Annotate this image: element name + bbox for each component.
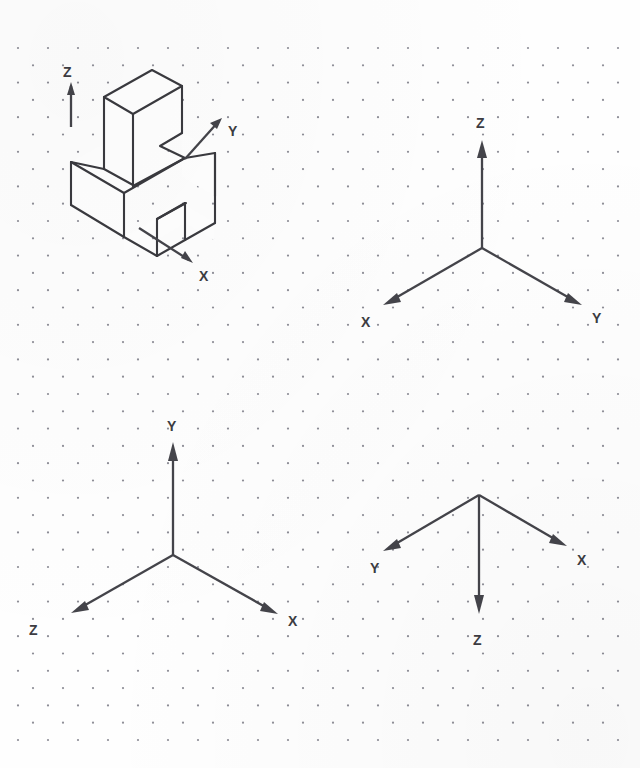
grid-dot [137,428,139,430]
grid-dot [512,99,514,101]
grid-dot [242,479,244,481]
grid-dot [377,47,379,49]
grid-dot [152,479,154,481]
grid-dot [287,393,289,395]
grid-dot [302,687,304,689]
grid-dot [257,82,259,84]
grid-dot [152,341,154,343]
grid-dot [317,704,319,706]
grid-dot [107,393,109,395]
grid-dot [302,583,304,585]
grid-dot [197,601,199,603]
triad2-label-z: Z [29,622,38,638]
grid-dot [62,722,64,724]
grid-dot [437,428,439,430]
grid-dot [452,445,454,447]
grid-dot [242,376,244,378]
grid-dot [272,583,274,585]
grid-dot [422,722,424,724]
grid-dot [302,410,304,412]
grid-dot [452,376,454,378]
grid-dot [587,185,589,187]
grid-dot [422,64,424,66]
grid-dot [32,133,34,135]
grid-dot [62,306,64,308]
grid-dot [347,566,349,568]
grid-dot [287,739,289,741]
grid-dot [212,514,214,516]
grid-dot [17,47,19,49]
grid-dot [92,99,94,101]
grid-dot [422,99,424,101]
grid-dot [77,739,79,741]
grid-dot [362,514,364,516]
grid-dot [47,47,49,49]
grid-dot [317,116,319,118]
grid-dot [422,479,424,481]
grid-dot [227,670,229,672]
grid-dot [437,255,439,257]
grid-dot [482,64,484,66]
grid-dot [407,47,409,49]
grid-dot [242,272,244,274]
grid-dot [347,116,349,118]
grid-dot [527,393,529,395]
grid-dot [32,376,34,378]
grid-dot [527,566,529,568]
grid-dot [62,341,64,343]
triad3-axis-z-arrowhead [474,595,484,614]
grid-dot [32,306,34,308]
grid-dot [242,203,244,205]
grid-dot [227,739,229,741]
grid-dot [122,687,124,689]
grid-dot [17,531,19,533]
grid-dot [227,255,229,257]
grid-dot [272,618,274,620]
grid-dot [422,618,424,620]
grid-dot [542,376,544,378]
grid-dot [182,445,184,447]
grid-dot [377,462,379,464]
grid-dot [212,376,214,378]
grid-dot [587,670,589,672]
grid-dot [272,722,274,724]
grid-dot [107,82,109,84]
grid-dot [17,497,19,499]
grid-dot [242,64,244,66]
grid-dot [347,393,349,395]
grid-dot [497,47,499,49]
grid-dot [482,722,484,724]
grid-dot [617,704,619,706]
grid-dot [482,549,484,551]
grid-dot [512,549,514,551]
grid-dot [137,324,139,326]
grid-dot [617,324,619,326]
grid-dot [497,358,499,360]
grid-dot [197,670,199,672]
grid-dot [227,324,229,326]
grid-dot [602,549,604,551]
grid-dot [602,514,604,516]
grid-dot [422,341,424,343]
grid-dot [167,393,169,395]
triad2-axis-z-line [80,555,173,608]
grid-dot [317,428,319,430]
grid-dot [302,133,304,135]
grid-dot [527,358,529,360]
grid-dot [437,185,439,187]
grid-dot [47,601,49,603]
grid-dot [287,82,289,84]
grid-dot [62,237,64,239]
grid-dot [32,203,34,205]
grid-dot [617,358,619,360]
grid-dot [77,497,79,499]
triad1-label-x: X [361,314,371,330]
grid-dot [437,670,439,672]
grid-dot [437,566,439,568]
grid-dot [212,583,214,585]
grid-dot [407,531,409,533]
grid-dot [272,168,274,170]
grid-dot [137,531,139,533]
grid-dot [77,220,79,222]
grid-dot [47,151,49,153]
